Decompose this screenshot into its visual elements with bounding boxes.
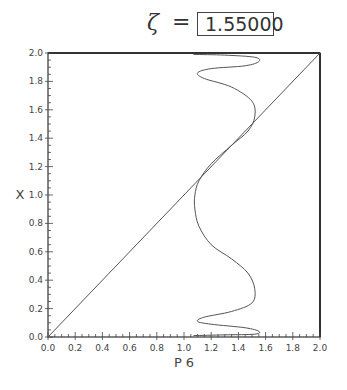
map-curve: [194, 54, 260, 335]
y-tick-label: 2.0: [29, 48, 44, 58]
y-tick-label: 1.0: [29, 190, 44, 200]
y-tick-label: 1.4: [29, 133, 44, 143]
y-tick-label: 0.6: [29, 247, 44, 257]
x-tick-label: 0.8: [150, 343, 165, 353]
y-tick-label: 0.0: [29, 332, 44, 342]
y-axis-label: X: [16, 187, 25, 202]
x-tick-label: 1.0: [177, 343, 192, 353]
y-tick-label: 0.4: [29, 275, 44, 285]
x-tick-label: 1.2: [204, 343, 218, 353]
chart-plot: 0.00.20.40.60.81.01.21.41.61.82.00.00.20…: [0, 0, 347, 390]
x-tick-label: 2.0: [313, 343, 328, 353]
x-tick-label: 0.4: [95, 343, 110, 353]
y-tick-label: 1.8: [29, 76, 44, 86]
x-tick-label: 0.6: [122, 343, 137, 353]
y-tick-label: 0.8: [29, 218, 44, 228]
identity-line: [48, 53, 320, 337]
x-axis-label: P 6: [174, 355, 194, 370]
x-tick-label: 1.4: [231, 343, 246, 353]
x-tick-label: 1.8: [286, 343, 301, 353]
y-tick-label: 0.2: [29, 304, 43, 314]
x-tick-label: 0.0: [41, 343, 56, 353]
x-tick-label: 1.6: [258, 343, 273, 353]
y-tick-label: 1.6: [29, 105, 44, 115]
y-tick-label: 1.2: [29, 162, 43, 172]
x-tick-label: 0.2: [68, 343, 82, 353]
